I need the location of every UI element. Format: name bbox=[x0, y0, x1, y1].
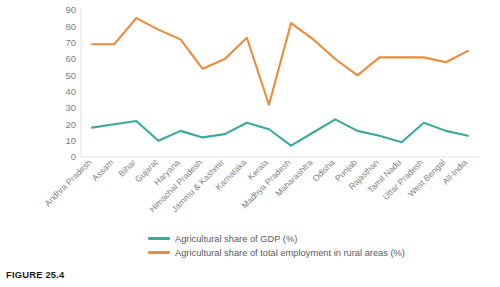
x-category-label: Odisha bbox=[310, 157, 336, 183]
series-line-employment-share bbox=[92, 18, 468, 105]
x-category-label: Assam bbox=[90, 157, 116, 183]
y-tick-label: 50 bbox=[65, 70, 76, 81]
x-category-label-group: All-India bbox=[440, 157, 469, 186]
legend-item-employment-share: Agricultural share of total employment i… bbox=[148, 246, 468, 259]
y-tick-label: 60 bbox=[65, 53, 76, 64]
legend-swatch-employment-share bbox=[148, 251, 170, 254]
y-tick-label: 20 bbox=[65, 119, 76, 130]
y-tick-label: 70 bbox=[65, 37, 76, 48]
figure-caption: FIGURE 25.4 bbox=[6, 269, 64, 280]
y-tick-label: 90 bbox=[65, 4, 76, 15]
chart-legend: Agricultural share of GDP (%) Agricultur… bbox=[148, 232, 468, 260]
legend-label-gdp-share: Agricultural share of GDP (%) bbox=[175, 234, 297, 244]
x-category-label: All-India bbox=[440, 157, 469, 186]
legend-item-gdp-share: Agricultural share of GDP (%) bbox=[148, 232, 468, 245]
y-tick-label: 40 bbox=[65, 86, 76, 97]
y-tick-label: 10 bbox=[65, 135, 76, 146]
legend-label-employment-share: Agricultural share of total employment i… bbox=[175, 248, 405, 258]
x-category-label-group: Andhra Pradesh bbox=[42, 157, 93, 208]
chart-canvas: 0102030405060708090Andhra PradeshAssamBi… bbox=[0, 0, 500, 235]
x-category-label-group: Odisha bbox=[310, 157, 336, 183]
x-category-label: Andhra Pradesh bbox=[42, 157, 93, 208]
legend-swatch-gdp-share bbox=[148, 237, 170, 240]
x-category-label-group: Assam bbox=[90, 157, 116, 183]
y-tick-label: 30 bbox=[65, 102, 76, 113]
y-tick-label: 80 bbox=[65, 21, 76, 32]
figure-container: 0102030405060708090Andhra PradeshAssamBi… bbox=[0, 0, 500, 287]
series-line-gdp-share bbox=[92, 119, 468, 145]
line-chart: 0102030405060708090Andhra PradeshAssamBi… bbox=[0, 0, 500, 235]
y-tick-label: 0 bbox=[71, 151, 76, 162]
